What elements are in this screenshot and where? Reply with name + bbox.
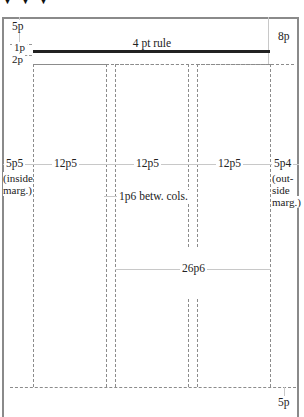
- gutter-dimension-line: [104, 196, 118, 197]
- outside-margin-note-3: marg.): [272, 196, 301, 208]
- inside-margin-note-1: (inside: [3, 172, 33, 184]
- arrow-down-icon: ▼: [39, 0, 48, 6]
- gutter-label: 1p6 betw. cols.: [117, 190, 190, 203]
- arrow-down-icon: ▼: [21, 0, 30, 6]
- rule-label: 4 pt rule: [0, 37, 304, 49]
- column-1-width-label: 12p5: [52, 157, 79, 170]
- column-3-width-label: 12p5: [216, 157, 243, 170]
- inside-margin-label: 5p5: [4, 157, 25, 170]
- inside-margin-note-2: marg.): [3, 184, 32, 196]
- four-point-rule: [33, 50, 270, 53]
- span-width-label: 26p6: [180, 262, 207, 275]
- column-2: [115, 64, 189, 387]
- column-1: [33, 64, 107, 387]
- column-bottom-guide: [10, 387, 296, 388]
- arrow-down-icon: ▼: [3, 0, 12, 6]
- top-margin-label: 5p: [10, 20, 26, 33]
- outside-margin-note-2: side: [272, 184, 290, 196]
- bottom-margin-label: 5p: [276, 396, 292, 409]
- outside-margin-note-1: (out-: [272, 172, 293, 184]
- below-rule-label: 2p: [10, 54, 25, 65]
- column-3: [197, 64, 271, 387]
- outside-margin-label: 5p4: [272, 157, 293, 170]
- column-2-width-label: 12p5: [134, 157, 161, 170]
